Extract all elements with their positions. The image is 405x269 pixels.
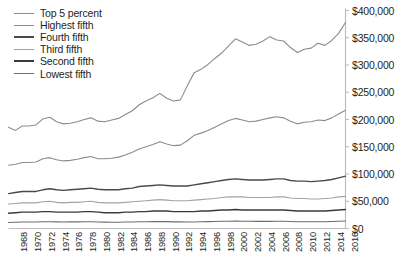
y-axis-tick-label: $100,000 [352,168,394,180]
x-axis-tick-label: 2006 [281,232,291,252]
y-axis-tick-label: $350,000 [352,32,394,44]
series-line[interactable] [9,209,346,213]
x-axis-tick-label: 2014 [336,232,346,252]
legend-line-icon [14,60,34,62]
legend-line-icon [14,25,34,26]
series-line[interactable] [9,196,346,204]
y-axis-tick-label: $250,000 [352,86,394,98]
income-quintile-line-chart: Top 5 percentHighest fifthFourth fifthTh… [0,0,405,269]
legend-item-label: Fourth fifth [40,31,88,43]
x-axis-tick-label: 1986 [143,232,153,252]
x-axis-tick-label: 1970 [33,232,43,252]
series-line[interactable] [9,176,346,193]
x-axis-tick-label: 1982 [116,232,126,252]
legend-item[interactable]: Highest fifth [14,19,102,31]
x-axis-tick-label: 1992 [184,232,194,252]
x-axis-tick-label: 2012 [322,232,332,252]
x-axis-tick-label: 1998 [226,232,236,252]
x-axis-tick-label: 1994 [198,232,208,252]
x-axis-tick-label: 2016 [350,232,360,252]
x-axis-tick-label: 1990 [171,232,181,252]
y-axis-tick-label: $200,000 [352,114,394,126]
y-axis-tick-label: $300,000 [352,59,394,71]
legend-item[interactable]: Third fifth [14,43,102,55]
x-axis-tick-label: 1978 [88,232,98,252]
x-axis-tick-label: 1996 [212,232,222,252]
legend-line-icon [14,36,34,38]
legend-line-icon [14,49,34,50]
legend-line-icon [14,13,34,14]
legend-item[interactable]: Top 5 percent [14,7,102,19]
series-line[interactable] [9,110,346,165]
x-axis-tick-label: 2000 [239,232,249,252]
x-axis-tick-label: 1972 [47,232,57,252]
legend-item[interactable]: Fourth fifth [14,31,102,43]
series-line[interactable] [9,221,346,223]
x-axis-tick-label: 2008 [294,232,304,252]
x-axis-tick-label: 1976 [74,232,84,252]
legend-item-label: Third fifth [40,43,82,55]
x-axis-tick-label: 2002 [253,232,263,252]
x-axis-tick-label: 1974 [61,232,71,252]
chart-legend: Top 5 percentHighest fifthFourth fifthTh… [14,7,102,80]
y-axis-tick-label: $50,000 [352,195,389,207]
legend-item[interactable]: Second fifth [14,55,102,67]
legend-item-label: Second fifth [40,55,94,67]
x-axis-tick-label: 1988 [157,232,167,252]
legend-item[interactable]: Lowest fifth [14,67,102,79]
x-axis-tick-label: 1984 [129,232,139,252]
legend-item-label: Lowest fifth [40,68,91,80]
legend-line-icon [14,73,34,74]
x-axis-tick-label: 2010 [308,232,318,252]
x-axis-tick-label: 1980 [102,232,112,252]
y-axis-tick-label: $150,000 [352,141,394,153]
legend-item-label: Highest fifth [40,19,94,31]
y-axis-tick-label: $400,000 [352,5,394,17]
x-axis-tick-label: 2004 [267,232,277,252]
x-axis-tick-label: 1968 [19,232,29,252]
legend-item-label: Top 5 percent [40,7,102,19]
